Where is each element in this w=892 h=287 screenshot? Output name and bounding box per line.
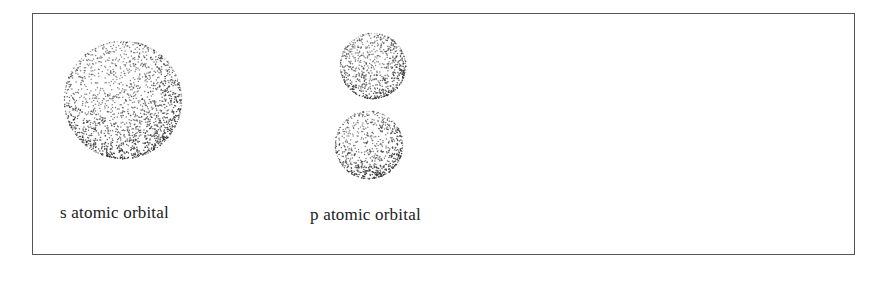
s-orbital-sphere (64, 41, 182, 160)
p-orbital-label: p atomic orbital (310, 205, 421, 225)
p-orbital-dumbbell (335, 33, 407, 180)
s-orbital-label: s atomic orbital (60, 203, 169, 223)
orbital-illustrations (0, 0, 892, 287)
